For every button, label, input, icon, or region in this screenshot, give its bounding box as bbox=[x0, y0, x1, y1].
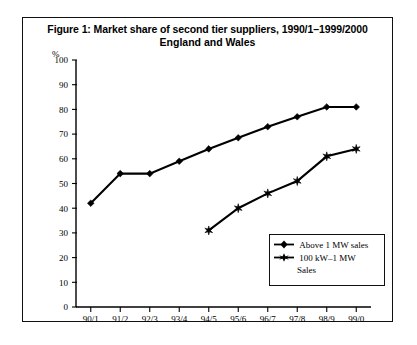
x-axis-tick-labels: 90/191/292/393/494/595/696/797/898/999/0 bbox=[83, 314, 365, 323]
data-point-marker bbox=[235, 135, 242, 142]
star-marker-icon bbox=[274, 253, 294, 262]
y-tick-label: 40 bbox=[59, 204, 69, 214]
x-tick-label: 96/7 bbox=[260, 314, 277, 323]
data-point-marker bbox=[353, 104, 360, 111]
x-tick-label: 90/1 bbox=[83, 314, 99, 323]
y-tick-label: 90 bbox=[59, 80, 69, 90]
x-axis-tick-marks bbox=[91, 307, 357, 312]
y-tick-label: 30 bbox=[59, 228, 69, 238]
x-tick-label: 95/6 bbox=[230, 314, 247, 323]
data-point-marker bbox=[264, 189, 272, 198]
x-tick-label: 99/0 bbox=[348, 314, 365, 323]
series-markers bbox=[87, 104, 360, 235]
x-tick-label: 94/5 bbox=[201, 314, 218, 323]
series-lines bbox=[91, 107, 357, 230]
data-point-marker bbox=[176, 158, 183, 165]
legend-entry-above-1mw: Above 1 MW sales bbox=[274, 239, 368, 250]
chart-legend: Above 1 MW sales 100 kW–1 MW Sales bbox=[269, 234, 385, 286]
y-tick-label: 10 bbox=[59, 278, 69, 288]
legend-label-above-1mw: Above 1 MW sales bbox=[299, 240, 368, 250]
legend-entry-100kw-1mw: 100 kW–1 MW bbox=[274, 252, 356, 263]
data-point-marker bbox=[294, 114, 301, 121]
legend-label-100kw-1mw-wrap: Sales bbox=[297, 265, 316, 275]
series-line-0 bbox=[91, 107, 357, 203]
diamond-marker-icon bbox=[274, 240, 294, 249]
y-axis-tick-labels: 0102030405060708090100 bbox=[55, 55, 69, 312]
y-tick-label: 60 bbox=[59, 154, 69, 164]
y-tick-label: 70 bbox=[59, 129, 69, 139]
x-tick-label: 91/2 bbox=[112, 314, 128, 323]
figure-frame: Figure 1: Market share of second tier su… bbox=[22, 17, 393, 322]
data-point-marker bbox=[264, 123, 271, 130]
y-tick-label: 20 bbox=[59, 253, 69, 263]
legend-label-100kw-1mw: 100 kW–1 MW bbox=[299, 253, 356, 263]
x-tick-label: 97/8 bbox=[289, 314, 306, 323]
data-point-marker bbox=[205, 146, 212, 153]
y-tick-label: 50 bbox=[59, 179, 69, 189]
data-point-marker bbox=[323, 104, 330, 111]
y-tick-label: 100 bbox=[55, 55, 69, 65]
y-tick-label: 0 bbox=[64, 302, 69, 312]
x-tick-label: 98/9 bbox=[319, 314, 336, 323]
x-tick-label: 92/3 bbox=[142, 314, 159, 323]
x-tick-label: 93/4 bbox=[171, 314, 188, 323]
y-tick-label: 80 bbox=[59, 105, 69, 115]
data-point-marker bbox=[146, 170, 153, 177]
series-line-1 bbox=[209, 149, 357, 231]
